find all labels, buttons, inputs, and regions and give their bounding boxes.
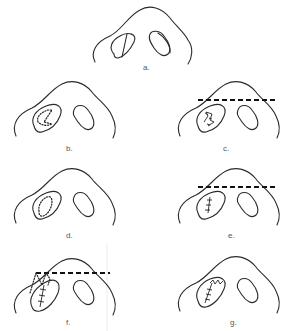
- right-nostril: [149, 31, 170, 55]
- right-nostril: [237, 106, 258, 130]
- right-nostril: [237, 279, 258, 303]
- panel-d: [14, 169, 115, 225]
- panel-g: [178, 257, 279, 313]
- label-g: g.: [230, 318, 237, 327]
- nose-outline: [93, 7, 192, 64]
- panel-c: [178, 82, 279, 138]
- label-f: f.: [66, 318, 70, 327]
- panel-e: [178, 169, 279, 225]
- panel-a: [93, 7, 192, 64]
- panel-b: [14, 82, 115, 138]
- right-nostril: [73, 193, 94, 217]
- right-nostril: [237, 193, 258, 217]
- nose-outline: [14, 82, 115, 138]
- label-b: b.: [66, 144, 73, 153]
- label-c: c.: [223, 144, 229, 153]
- oval-excision: [39, 197, 52, 217]
- label-e: e.: [228, 231, 235, 240]
- straight-suture: [205, 283, 212, 303]
- zigzag-suture: [204, 112, 214, 126]
- nose-outline: [178, 82, 279, 138]
- straight-suture: [205, 197, 212, 213]
- triangular-flap: [30, 273, 50, 293]
- z-incision: [38, 110, 52, 125]
- label-d: d.: [66, 231, 73, 240]
- straight-suture: [38, 285, 46, 307]
- nose-outline: [178, 257, 279, 313]
- label-a: a.: [143, 63, 150, 72]
- right-nostril: [73, 281, 94, 305]
- nose-outline: [14, 169, 115, 225]
- right-nostril: [73, 106, 94, 130]
- panel-f: [14, 259, 115, 315]
- nose-outline: [178, 169, 279, 225]
- left-nostril: [33, 191, 61, 219]
- nasal-surgery-diagram: a. b. c. d. e.: [0, 0, 287, 331]
- nose-outline: [14, 259, 115, 315]
